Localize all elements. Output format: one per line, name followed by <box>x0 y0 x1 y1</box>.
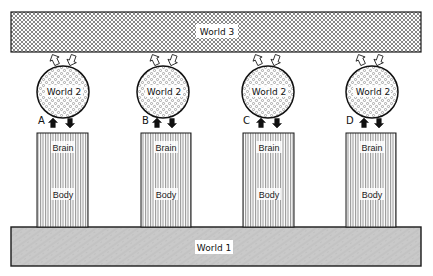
brain-label: Brain <box>258 143 279 153</box>
world1-label: World 1 <box>197 243 231 253</box>
hollow-arrow-up-icon <box>48 52 62 66</box>
unit-b: World 2 B Brain Body <box>137 52 191 227</box>
unit-letter: D <box>346 115 354 126</box>
world2-label: World 2 <box>47 87 81 97</box>
world3-label: World 3 <box>200 27 234 37</box>
unit-d: World 2 D Brain Body <box>346 52 398 227</box>
world2-label: World 2 <box>147 87 181 97</box>
unit-a: World 2 A Brain Body <box>37 52 89 227</box>
hollow-arrow-up-icon <box>354 52 368 66</box>
unit-c: World 2 C Brain Body <box>242 52 294 227</box>
hollow-arrow-down-icon <box>269 54 282 68</box>
hollow-arrow-down-icon <box>372 54 385 68</box>
solid-arrow-down-icon <box>168 119 177 129</box>
body-label: Body <box>259 190 280 200</box>
hollow-arrow-down-icon <box>65 54 78 68</box>
solid-arrow-down-icon <box>66 119 75 129</box>
solid-arrow-up-icon <box>153 118 162 128</box>
unit-letter: C <box>243 115 250 126</box>
three-worlds-diagram: World 3 World 1 World 2 A Brain Body Wor… <box>0 0 433 276</box>
unit-letter: B <box>142 115 149 126</box>
brain-label: Brain <box>52 143 73 153</box>
brain-label: Brain <box>361 143 382 153</box>
world2-label: World 2 <box>356 87 390 97</box>
solid-arrow-up-icon <box>257 118 266 128</box>
world1-box: World 1 <box>11 227 421 266</box>
world3-box: World 3 <box>11 12 421 52</box>
solid-arrow-up-icon <box>49 118 58 128</box>
body-label: Body <box>362 190 383 200</box>
body-label: Body <box>156 190 177 200</box>
world2-label: World 2 <box>252 87 286 97</box>
solid-arrow-down-icon <box>375 119 384 129</box>
hollow-arrow-up-icon <box>251 52 265 66</box>
body-label: Body <box>53 190 74 200</box>
solid-arrow-up-icon <box>360 118 369 128</box>
unit-letter: A <box>38 115 45 126</box>
hollow-arrow-down-icon <box>166 54 179 68</box>
brain-label: Brain <box>155 143 176 153</box>
hollow-arrow-up-icon <box>148 52 162 66</box>
solid-arrow-down-icon <box>273 119 282 129</box>
